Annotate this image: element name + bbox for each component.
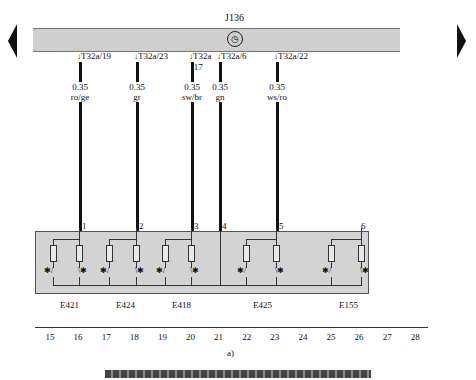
ecu-bus-bar	[33, 28, 400, 52]
grid-ruler-line	[35, 327, 428, 328]
component-label: E418	[172, 300, 191, 310]
resistor-icon	[273, 245, 280, 262]
resistor-icon	[133, 245, 140, 262]
nav-left-arrow[interactable]	[8, 24, 17, 58]
resistor-icon	[358, 245, 365, 262]
ruler-tick-label: 18	[126, 332, 142, 342]
pin-text: T32a/19	[81, 51, 111, 61]
clock-icon: ◷	[227, 31, 243, 47]
top-link-line	[53, 239, 79, 240]
ruler-tick-label: 21	[211, 332, 227, 342]
ruler-tick-label: 28	[407, 332, 423, 342]
figure-label: a)	[227, 348, 234, 358]
top-link-line	[165, 239, 191, 240]
wire-gauge: 0.35	[122, 82, 152, 92]
ruler-tick-label: 25	[323, 332, 339, 342]
ruler-tick-label: 19	[154, 332, 170, 342]
led-switch-icon: \✱	[360, 267, 369, 275]
ruler-tick-label: 24	[295, 332, 311, 342]
resistor-icon	[243, 245, 250, 262]
connector-pin-label: ↓T32a/23	[134, 51, 168, 62]
pin-text: T32a/6	[221, 51, 247, 61]
top-link-line	[109, 239, 136, 240]
ruler-tick-label: 26	[351, 332, 367, 342]
led-switch-icon: ✱/	[44, 267, 53, 275]
branch-line	[276, 277, 277, 286]
terminal-4-line	[220, 231, 221, 286]
ruler-tick-label: 15	[42, 332, 58, 342]
ruler-tick-label: 22	[239, 332, 255, 342]
branch-line	[165, 277, 166, 286]
wire-color-code: gn	[205, 92, 235, 102]
wire-gauge: 0.35	[262, 82, 292, 92]
terminal-number: 4	[222, 221, 227, 231]
wire-color-code: ro/ge	[65, 92, 95, 102]
ruler-tick-label: 27	[379, 332, 395, 342]
branch-line	[191, 277, 192, 286]
led-switch-icon: \✱	[78, 267, 87, 275]
wire-color-code: sw/br	[177, 92, 207, 102]
led-switch-icon: ✱/	[100, 267, 109, 275]
led-switch-icon: ✱/	[237, 267, 246, 275]
wire-spec-label: 0.35gr	[122, 82, 152, 102]
connector-pin-label: ↓T32a/19	[77, 51, 111, 62]
ruler-tick-label: 17	[98, 332, 114, 342]
connector-pin-label: ↓T32a/22	[274, 51, 308, 62]
pin-text: T32a/22	[278, 51, 308, 61]
branch-line	[53, 277, 54, 286]
led-switch-icon: ✱/	[322, 267, 331, 275]
wire-spec-label: 0.35ws/ro	[262, 82, 292, 102]
resistor-icon	[328, 245, 335, 262]
branch-line	[79, 277, 80, 286]
resistor-icon	[50, 245, 57, 262]
wire-color-code: ws/ro	[262, 92, 292, 102]
branch-line	[136, 277, 137, 286]
pin-text: T32a/23	[138, 51, 168, 61]
wire-color-code: gr	[122, 92, 152, 102]
resistor-icon	[106, 245, 113, 262]
led-switch-icon: \✱	[190, 267, 199, 275]
terminal-number: 1	[82, 221, 87, 231]
wire-spec-label: 0.35sw/br	[177, 82, 207, 102]
branch-line	[246, 277, 247, 286]
figure-caption	[105, 370, 371, 378]
branch-line	[361, 277, 362, 286]
component-label: E425	[253, 300, 272, 310]
wire-spec-label: 0.35gn	[205, 82, 235, 102]
terminal-number: 5	[279, 221, 284, 231]
wire-gauge: 0.35	[177, 82, 207, 92]
ruler-tick-label: 16	[70, 332, 86, 342]
component-label: E155	[339, 300, 358, 310]
wire-gauge: 0.35	[65, 82, 95, 92]
ruler-tick-label: 20	[183, 332, 199, 342]
ruler-tick-label: 23	[267, 332, 283, 342]
resistor-icon	[188, 245, 195, 262]
component-label: E421	[60, 300, 79, 310]
branch-line	[331, 277, 332, 286]
wire-spec-label: 0.35ro/ge	[65, 82, 95, 102]
top-link-line	[246, 239, 276, 240]
resistor-icon	[162, 245, 169, 262]
ecu-label: J136	[225, 12, 244, 23]
resistor-icon	[76, 245, 83, 262]
connector-pin-label: ↓T32a/6	[217, 51, 247, 62]
led-switch-icon: \✱	[135, 267, 144, 275]
ground-bus-line	[53, 285, 361, 286]
top-link-line	[331, 239, 361, 240]
wire-gauge: 0.35	[205, 82, 235, 92]
led-switch-icon: \✱	[275, 267, 284, 275]
component-label: E424	[116, 300, 135, 310]
led-switch-icon: ✱/	[156, 267, 165, 275]
branch-line	[109, 277, 110, 286]
terminal-number: 3	[194, 221, 199, 231]
nav-right-arrow[interactable]	[457, 24, 466, 58]
terminal-number: 2	[139, 221, 144, 231]
